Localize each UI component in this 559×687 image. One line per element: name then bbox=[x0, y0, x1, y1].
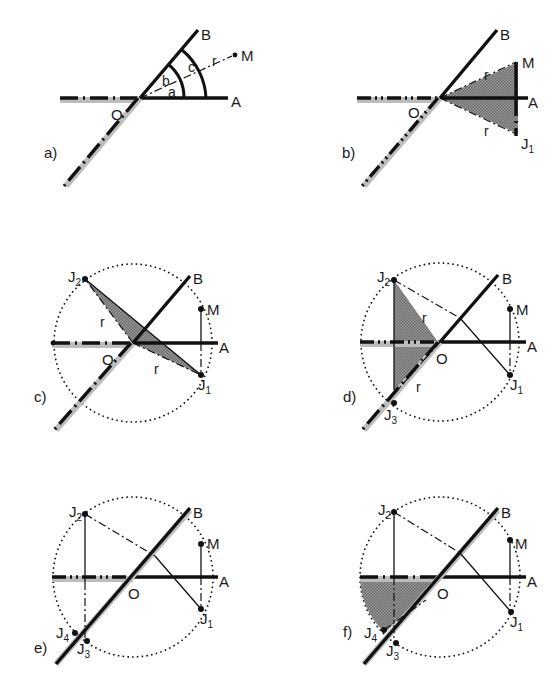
segment-j2-j1 bbox=[460, 553, 511, 612]
segment-oj2 bbox=[85, 279, 133, 343]
label-r: r bbox=[422, 310, 427, 326]
point-j4 bbox=[72, 630, 78, 636]
label-o: O bbox=[437, 585, 449, 602]
label-j3: J3 bbox=[384, 406, 398, 426]
label-r: r bbox=[484, 123, 489, 139]
segment-j2-j1 bbox=[460, 318, 510, 375]
point-j3 bbox=[391, 400, 397, 406]
label-m: M bbox=[241, 47, 254, 64]
label-j1: J1 bbox=[200, 610, 214, 630]
segment-j2-j1 bbox=[155, 556, 201, 609]
label-a: A bbox=[219, 573, 229, 590]
label-j1: J1 bbox=[510, 613, 524, 633]
label-b: B bbox=[193, 270, 203, 287]
point-j2 bbox=[391, 277, 397, 283]
panel-label-e: e) bbox=[34, 639, 47, 656]
panel-label-c: c) bbox=[34, 388, 47, 405]
panel-b: B M A O r r J1 b) bbox=[342, 26, 538, 186]
point-j2 bbox=[391, 509, 397, 515]
label-b: B bbox=[500, 26, 510, 43]
segment-om bbox=[140, 56, 232, 98]
point-m bbox=[507, 306, 513, 312]
label-r: r bbox=[100, 314, 105, 330]
label-a: A bbox=[527, 573, 537, 590]
point-m bbox=[507, 537, 513, 543]
label-a: A bbox=[219, 339, 229, 356]
point-j2 bbox=[82, 511, 88, 517]
point-j2 bbox=[82, 276, 88, 282]
label-m: M bbox=[522, 54, 535, 71]
panel-a: B M A O a b c r a) bbox=[44, 26, 254, 186]
point-m bbox=[233, 53, 238, 58]
panel-d: J2 B M A O r r J1 J3 d) bbox=[343, 263, 537, 430]
point-m bbox=[198, 541, 204, 547]
panel-label-d: d) bbox=[343, 388, 356, 405]
label-o: O bbox=[408, 104, 420, 121]
label-o: O bbox=[128, 585, 140, 602]
label-o: O bbox=[111, 106, 123, 123]
label-r: r bbox=[212, 53, 217, 69]
panel-f: J2 B M A O J1 J4 J3 f) bbox=[343, 497, 537, 664]
half-plane-ob bbox=[440, 275, 498, 342]
panel-label-f: f) bbox=[343, 623, 352, 640]
label-j2: J2 bbox=[377, 268, 391, 288]
label-b: B bbox=[201, 26, 211, 43]
label-r: r bbox=[416, 379, 421, 395]
label-r: r bbox=[484, 67, 489, 83]
half-plane-ob bbox=[133, 276, 190, 343]
label-j1: J1 bbox=[510, 376, 524, 396]
label-b: B bbox=[193, 504, 203, 521]
label-j2: J2 bbox=[68, 268, 82, 288]
label-j4: J4 bbox=[56, 624, 70, 644]
label-o: O bbox=[102, 351, 114, 368]
label-j1: J1 bbox=[198, 376, 212, 396]
point-j4 bbox=[381, 627, 387, 633]
label-m: M bbox=[207, 535, 220, 552]
label-o: O bbox=[436, 350, 448, 367]
panel-e: J2 B M A O J1 J4 J3 e) bbox=[34, 497, 229, 664]
panel-label-b: b) bbox=[342, 144, 355, 161]
segment-j2-j1-dashed bbox=[85, 514, 155, 556]
label-j2: J2 bbox=[69, 503, 83, 523]
label-angle-b: b bbox=[162, 73, 170, 89]
panel-c: J2 B M A O r r J1 c) bbox=[34, 264, 229, 430]
label-a: A bbox=[528, 94, 538, 111]
panel-label-a: a) bbox=[44, 144, 57, 161]
point-j3 bbox=[393, 640, 399, 646]
point-m bbox=[198, 306, 204, 312]
shaded-triangle bbox=[394, 280, 438, 394]
label-j4: J4 bbox=[364, 624, 378, 644]
label-angle-c: c bbox=[188, 59, 195, 75]
label-j2: J2 bbox=[378, 501, 392, 521]
label-m: M bbox=[516, 301, 529, 318]
label-b: B bbox=[502, 270, 512, 287]
label-r: r bbox=[154, 361, 159, 377]
segment-j2-j1-dashed bbox=[394, 512, 460, 553]
label-m: M bbox=[515, 535, 528, 552]
label-b: B bbox=[501, 504, 511, 521]
circle-left-point bbox=[51, 341, 56, 346]
label-a: A bbox=[527, 338, 537, 355]
label-a: A bbox=[231, 93, 241, 110]
label-j1: J1 bbox=[521, 135, 535, 155]
label-m: M bbox=[207, 301, 220, 318]
diagram-canvas: B M A O a b c r a) B M A O r r J1 b) bbox=[0, 0, 559, 687]
point-j3 bbox=[84, 638, 90, 644]
